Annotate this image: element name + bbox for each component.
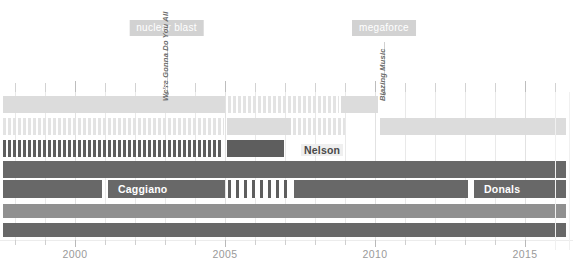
x-axis-tick-minor (195, 240, 196, 245)
plot-area (0, 92, 573, 240)
x-axis-tick-major (375, 240, 376, 247)
bar-label: Donals (484, 184, 520, 195)
timeline-bar-segment[interactable] (227, 118, 292, 135)
x-tickmark-minor (285, 83, 286, 92)
timeline-bar-segment[interactable] (341, 96, 379, 113)
x-tickmark-minor (405, 83, 406, 92)
timeline-bar-segment[interactable] (293, 118, 346, 135)
x-tickmark-minor (465, 83, 466, 92)
x-tickmark-major (225, 81, 226, 92)
x-tickmark-minor (315, 83, 316, 92)
bar-label: Caggiano (118, 184, 167, 195)
x-axis-tick-minor (345, 240, 346, 245)
x-axis-tick-minor (15, 240, 16, 245)
x-tickmark-minor (555, 83, 556, 92)
x-axis-tick-minor (105, 240, 106, 245)
x-tickmark-minor (435, 83, 436, 92)
x-axis-tick-minor (435, 240, 436, 245)
timeline-bar-segment[interactable] (3, 204, 566, 218)
edge-separator (569, 92, 570, 250)
timeline-bar-segment[interactable] (3, 96, 225, 113)
timeline-bar-segment[interactable] (228, 96, 339, 113)
x-tickmark-minor (15, 83, 16, 92)
x-tickmark-minor (255, 83, 256, 92)
x-axis-tick-major (75, 240, 76, 247)
edge-separator (555, 92, 556, 250)
annotation-event-label: Blazing Music (378, 48, 387, 101)
timeline-bar-segment[interactable] (294, 180, 468, 198)
x-tickmark-major (525, 81, 526, 92)
x-axis-tick-minor (465, 240, 466, 245)
timeline-bar-segment[interactable] (3, 161, 566, 178)
x-axis-label: 2015 (513, 248, 538, 260)
timeline-bar-segment[interactable] (3, 180, 102, 198)
x-tickmark-minor (345, 83, 346, 92)
bar-label: Nelson (301, 144, 343, 157)
x-axis-tick-minor (135, 240, 136, 245)
x-tickmark-minor (495, 83, 496, 92)
timeline-bar-segment[interactable] (3, 118, 224, 135)
x-tickmark-minor (105, 83, 106, 92)
x-axis-tick-major (225, 240, 226, 247)
timeline-chart: nuclear blastWe're Gonna Do You Allmegaf… (0, 0, 573, 270)
x-axis-tick-minor (165, 240, 166, 245)
annotation-badge[interactable]: megaforce (352, 20, 416, 36)
x-axis-tick-major (525, 240, 526, 247)
x-axis-tick-minor (495, 240, 496, 245)
x-axis-tick-minor (315, 240, 316, 245)
x-axis-tick-minor (45, 240, 46, 245)
timeline-bar-segment[interactable] (3, 140, 222, 157)
x-tickmark-minor (135, 83, 136, 92)
x-axis-tick-minor (255, 240, 256, 245)
timeline-bar-segment[interactable] (380, 118, 566, 135)
x-tickmark-minor (165, 83, 166, 92)
x-tickmark-minor (195, 83, 196, 92)
timeline-bar-segment[interactable] (228, 180, 291, 198)
x-axis-line (0, 240, 573, 241)
timeline-bar-segment[interactable] (3, 223, 566, 237)
x-axis-label: 2005 (213, 248, 238, 260)
x-tickmark-major (75, 81, 76, 92)
x-tickmark-major (375, 81, 376, 92)
x-axis-tick-minor (285, 240, 286, 245)
x-axis-label: 2000 (63, 248, 88, 260)
timeline-bar-segment[interactable] (227, 140, 284, 157)
x-axis-label: 2010 (363, 248, 388, 260)
x-tickmark-minor (45, 83, 46, 92)
x-axis-tick-minor (405, 240, 406, 245)
